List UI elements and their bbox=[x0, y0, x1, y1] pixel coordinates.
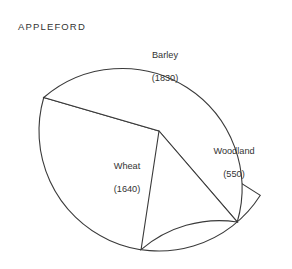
chart-title: APPLEFORD bbox=[18, 21, 86, 32]
slice-label-barley-value: (1830) bbox=[133, 73, 197, 83]
slice-label-wheat-name: Wheat bbox=[96, 161, 158, 171]
pie-chart-canvas bbox=[0, 0, 292, 269]
slice-label-woodland-name: Woodland bbox=[200, 146, 268, 156]
slice-label-woodland-value: (550) bbox=[200, 169, 268, 179]
slice-label-barley-name: Barley bbox=[133, 50, 197, 60]
pie-chart-figure: APPLEFORD Barley (1830) Woodland (550) W… bbox=[0, 0, 292, 269]
slice-label-wheat: Wheat (1640) bbox=[96, 161, 158, 194]
slice-label-woodland: Woodland (550) bbox=[200, 146, 268, 179]
slice-label-wheat-value: (1640) bbox=[96, 184, 158, 194]
slice-label-barley: Barley (1830) bbox=[133, 50, 197, 83]
